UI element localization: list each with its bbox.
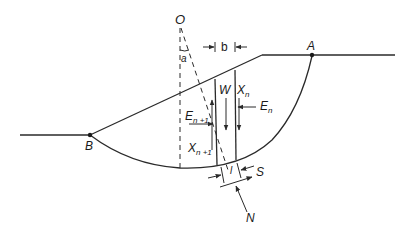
label-en-main: E [260,99,268,113]
label-point-a: A [307,40,315,52]
normal-arrow [236,186,247,212]
label-en1-main: E [185,109,193,123]
base-l-left-tick [221,167,224,183]
label-xn-main: X [237,83,245,97]
label-angle: a [181,54,187,64]
label-en-sub: n [268,106,272,115]
label-normal: N [246,212,255,224]
label-weight: W [219,84,230,96]
label-xn1-sub: n +1 [196,148,212,157]
base-l-right-tick [237,163,241,178]
base-l-left-arrow [208,175,221,178]
point-b-marker [88,133,92,137]
label-en: En [260,100,272,115]
label-en1-sub: n +1 [193,116,209,125]
angle-arc [180,50,189,51]
label-slice-width: b [221,41,228,53]
label-center-o: O [175,13,185,26]
label-xn: Xn [237,84,249,99]
slice-left-side [215,79,217,165]
label-xn1-main: X [188,141,196,155]
label-en1: En +1 [185,110,209,125]
label-point-b: B [85,140,93,152]
slope-stability-diagram: O a A B b W Xn En En +1 Xn +1 l S N [0,0,412,229]
label-xn1: Xn +1 [188,142,212,157]
label-xn-sub: n [245,90,249,99]
label-base-length: l [230,166,232,176]
shear-arrow [220,177,252,187]
base-l-right-arrow [241,166,254,170]
label-shear: S [256,166,264,178]
point-a-marker [310,53,314,57]
slice-right-side [235,70,236,160]
